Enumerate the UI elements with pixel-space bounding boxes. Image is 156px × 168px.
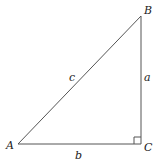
side-label-a: a bbox=[144, 71, 151, 84]
vertex-label-c: C bbox=[144, 141, 153, 154]
side-c bbox=[18, 16, 141, 144]
side-label-b: b bbox=[75, 149, 82, 162]
side-label-c: c bbox=[69, 71, 75, 84]
vertex-label-b: B bbox=[143, 4, 152, 17]
right-triangle-diagram: B A C c a b bbox=[0, 0, 156, 168]
vertex-label-a: A bbox=[5, 139, 14, 152]
right-angle-marker bbox=[134, 137, 141, 144]
